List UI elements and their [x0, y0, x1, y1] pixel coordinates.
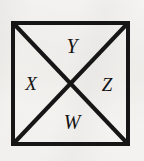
region-label-left-text: X [25, 73, 37, 94]
region-label-right: Z [90, 75, 124, 94]
region-label-bottom: W [0, 112, 144, 132]
region-label-top: Y [0, 36, 144, 56]
region-label-left: X [14, 74, 48, 93]
region-label-top-text: Y [66, 35, 77, 57]
region-label-bottom-text: W [64, 111, 81, 133]
diagram-canvas: Y X Z W [0, 0, 144, 161]
region-label-right-text: Z [102, 74, 113, 95]
